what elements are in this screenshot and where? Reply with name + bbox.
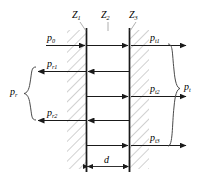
wave-label-pr1: pr1 bbox=[47, 59, 57, 69]
hatch-right-band bbox=[130, 30, 149, 169]
wave-label-pt3: pt3 bbox=[150, 133, 160, 143]
group-label-pr: pr bbox=[10, 87, 17, 97]
hatch-left-band bbox=[67, 30, 86, 169]
diagram-canvas bbox=[0, 0, 203, 184]
right-brace bbox=[168, 44, 180, 146]
z3-leader bbox=[130, 22, 136, 31]
wave-label-p0: p0 bbox=[47, 33, 55, 43]
group-label-pt: pt bbox=[184, 82, 191, 92]
impedance-label-z3: Z3 bbox=[129, 10, 138, 20]
thickness-label-d: d bbox=[104, 155, 109, 165]
wave-label-pt1: pt1 bbox=[150, 33, 160, 43]
impedance-label-z2: Z2 bbox=[101, 10, 110, 20]
z1-leader bbox=[80, 22, 86, 31]
wave-label-pr2: pr2 bbox=[47, 108, 57, 118]
wave-layer-diagram: Z1 Z2 Z3 p0 pt1 pr1 pt2 pr2 pt3 pr pt d bbox=[0, 0, 203, 184]
impedance-label-z1: Z1 bbox=[72, 10, 81, 20]
wave-label-pt2: pt2 bbox=[150, 84, 160, 94]
left-brace bbox=[24, 67, 36, 120]
